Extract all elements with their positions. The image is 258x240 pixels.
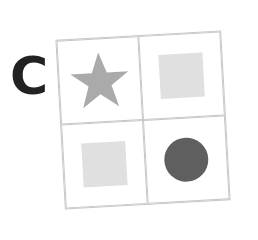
shape-grid bbox=[55, 30, 230, 209]
square-shape bbox=[81, 141, 127, 187]
star-icon bbox=[67, 49, 132, 112]
circle-shape bbox=[163, 136, 209, 182]
cell-top-right bbox=[138, 32, 225, 120]
cell-bottom-right bbox=[143, 115, 230, 203]
diagram-label: C bbox=[10, 50, 48, 102]
square-shape bbox=[158, 53, 204, 99]
cell-bottom-left bbox=[61, 120, 148, 208]
cell-top-left bbox=[56, 36, 143, 124]
